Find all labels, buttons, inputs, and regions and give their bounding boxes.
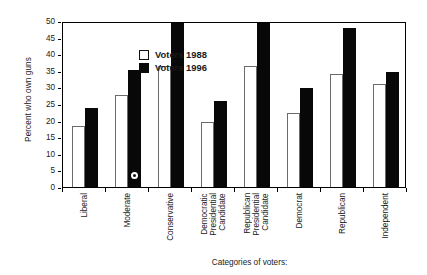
legend-swatch-open-icon [139, 50, 149, 60]
legend: Voters 1988 Voters 1996 [139, 50, 207, 73]
bar-republican-presidential-candidate-voters-1988 [244, 66, 257, 187]
x-category-label: Republican [320, 193, 363, 251]
x-category-label-line: Moderate [122, 193, 131, 228]
x-category-label-line: Liberal [79, 193, 88, 218]
y-tick-mark [58, 122, 61, 123]
x-tick-mark [234, 188, 235, 192]
x-tick-mark [363, 188, 364, 192]
y-tick-mark [58, 39, 61, 40]
x-category-label-line: Democrat [294, 193, 303, 229]
x-category-label-line: Candidate [217, 193, 226, 236]
x-category-label: Liberal [62, 193, 105, 251]
x-category-label-line: Conservative [165, 193, 174, 241]
x-category-label: Independent [363, 193, 406, 251]
x-category-label: RepublicanPresidentialCandidate [234, 193, 277, 251]
bar-democrat-voters-1996 [300, 88, 313, 187]
x-category-label-line: Republican [242, 193, 251, 236]
x-axis-title-text: Categories of voters: [212, 258, 288, 267]
bar-moderate-voters-1996 [128, 70, 141, 187]
y-tick-mark [58, 188, 61, 189]
bars-layer [63, 23, 405, 187]
legend-swatch-filled-icon [139, 63, 149, 73]
x-category-label: DemocraticPresidentialCandidate [191, 193, 234, 251]
y-tick-label: 50 [33, 18, 55, 26]
bar-republican-presidential-candidate-voters-1996 [257, 23, 270, 187]
y-tick-label: 40 [33, 51, 55, 59]
y-tick-label: 15 [33, 134, 55, 142]
bar-moderate-voters-1988 [115, 95, 128, 187]
bar-democratic-presidential-candidate-voters-1996 [214, 101, 227, 187]
x-category-label-line: Presidential [208, 193, 217, 236]
y-tick-mark [58, 138, 61, 139]
bar-independent-voters-1996 [386, 72, 399, 187]
x-category-label-line: Independent [380, 193, 389, 239]
bar-democratic-presidential-candidate-voters-1988 [201, 122, 214, 187]
y-tick-label: 20 [33, 118, 55, 126]
x-tick-mark [191, 188, 192, 192]
y-tick-label: 25 [33, 101, 55, 109]
bar-republican-voters-1988 [330, 74, 343, 187]
y-tick-mark [58, 105, 61, 106]
bar-liberal-voters-1996 [85, 108, 98, 187]
legend-label-0: Voters 1988 [155, 50, 207, 60]
x-category-label: Moderate [105, 193, 148, 251]
y-tick-label: 5 [33, 167, 55, 175]
x-category-label: Democrat [277, 193, 320, 251]
x-tick-mark [320, 188, 321, 192]
x-axis-title: Categories of voters: [0, 258, 427, 267]
bar-democrat-voters-1988 [287, 113, 300, 187]
y-tick-mark [58, 155, 61, 156]
bar-liberal-voters-1988 [72, 126, 85, 187]
y-tick-label: 0 [33, 184, 55, 192]
bar-independent-voters-1988 [373, 84, 386, 187]
legend-item-0: Voters 1988 [139, 50, 207, 60]
x-category-label-line: Presidential [251, 193, 260, 236]
y-tick-label: 10 [33, 151, 55, 159]
x-axis-category-labels: LiberalModerateConservativeDemocraticPre… [62, 193, 406, 253]
x-category-label-line: Democratic [199, 193, 208, 236]
y-tick-mark [58, 22, 61, 23]
legend-label-1: Voters 1996 [155, 63, 207, 73]
plot-area: Voters 1988 Voters 1996 [62, 22, 406, 188]
x-tick-mark [148, 188, 149, 192]
bar-republican-voters-1996 [343, 28, 356, 187]
y-tick-mark [58, 72, 61, 73]
bar-chart-figure: Percent who own guns 0510152025303540455… [0, 0, 427, 275]
x-category-label-line: Candidate [260, 193, 269, 236]
scan-blemish-marker-icon [131, 172, 138, 179]
y-tick-label: 30 [33, 84, 55, 92]
x-tick-mark [62, 188, 63, 192]
x-category-label: Conservative [148, 193, 191, 251]
bar-conservative-voters-1988 [158, 66, 171, 187]
y-tick-label: 45 [33, 35, 55, 43]
x-category-label-line: Republican [337, 193, 346, 234]
bar-conservative-voters-1996 [171, 23, 184, 187]
y-tick-mark [58, 55, 61, 56]
x-tick-mark [277, 188, 278, 192]
legend-item-1: Voters 1996 [139, 63, 207, 73]
x-tick-mark [105, 188, 106, 192]
x-tick-mark [406, 188, 407, 192]
y-tick-label: 35 [33, 68, 55, 76]
y-tick-mark [58, 171, 61, 172]
y-axis-title: Percent who own guns [24, 10, 33, 190]
y-tick-mark [58, 88, 61, 89]
